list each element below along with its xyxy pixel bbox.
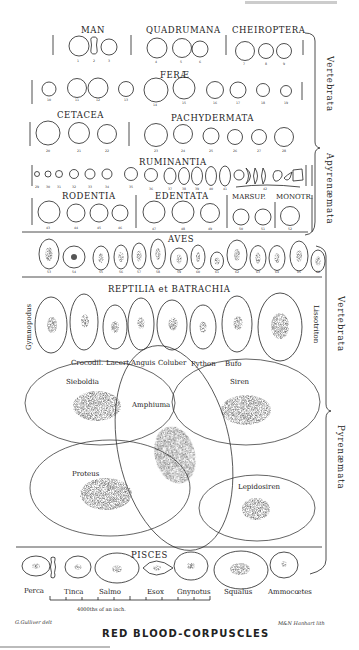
label-squalus: Squalus — [224, 588, 253, 596]
svg-text:15: 15 — [182, 101, 186, 105]
svg-text:30: 30 — [46, 185, 50, 189]
svg-text:36: 36 — [149, 187, 153, 191]
label-esox: Esox — [147, 588, 164, 596]
label-edentata: EDENTATA — [155, 191, 209, 201]
svg-text:28: 28 — [282, 149, 286, 153]
label-gymnopodus: Gymnopodus — [25, 303, 33, 350]
svg-text:18: 18 — [261, 101, 265, 105]
svg-text:26: 26 — [233, 149, 237, 153]
label-lissotriton: Lissotriton — [312, 305, 320, 344]
svg-text:7: 7 — [243, 62, 245, 66]
svg-text:2: 2 — [93, 59, 95, 63]
svg-text:41: 41 — [223, 187, 227, 191]
label-vertebrata-1: Vertebrata — [325, 55, 335, 112]
label-pisces: PISCES — [131, 550, 168, 560]
svg-text:57: 57 — [137, 270, 141, 274]
svg-text:47: 47 — [152, 227, 156, 231]
svg-text:21: 21 — [77, 149, 81, 153]
svg-text:65: 65 — [297, 270, 301, 274]
row-ruminantia: RUMINANTIA 293031 323334 353637 383940 4… — [32, 157, 312, 191]
svg-text:55: 55 — [99, 270, 103, 274]
faded-caption — [0, 646, 110, 648]
label-apyrenaemata: Apyrenæmata — [325, 152, 335, 225]
label-salmo: Salmo — [99, 588, 121, 596]
lithographer-signature: M&N Hanhart lith — [277, 620, 325, 626]
label-vertebrata-2: Vertebrata — [336, 295, 346, 352]
label-amphiuma: Amphiuma — [131, 401, 170, 409]
svg-text:63: 63 — [256, 270, 260, 274]
svg-text:58: 58 — [156, 270, 160, 274]
scale-label: 4000ths of an inch. — [77, 606, 126, 612]
figure-title: RED BLOOD-CORPUSCLES — [102, 628, 270, 639]
label-bufo: Bufo — [225, 360, 241, 368]
svg-text:6: 6 — [199, 60, 201, 64]
svg-text:53: 53 — [47, 270, 51, 274]
svg-text:32: 32 — [72, 185, 76, 189]
svg-text:24: 24 — [181, 149, 185, 153]
row-pisces: PISCES Perca Tinca Salmo Esox Gnynotus S… — [22, 550, 312, 596]
svg-text:34: 34 — [105, 185, 109, 189]
red-blood-corpuscles-plate: MAN QUADRUMANA CHEIROPTERA 123 456 789 F… — [0, 0, 359, 650]
svg-text:59: 59 — [177, 270, 181, 274]
svg-text:64: 64 — [275, 270, 279, 274]
svg-text:1: 1 — [77, 59, 79, 63]
svg-text:62: 62 — [235, 270, 239, 274]
svg-text:60: 60 — [196, 270, 200, 274]
svg-text:27: 27 — [257, 149, 261, 153]
svg-text:12: 12 — [96, 98, 100, 102]
svg-text:19: 19 — [284, 101, 288, 105]
scale-bar: 4000ths of an inch. — [50, 596, 210, 612]
label-ferae: FERÆ — [160, 70, 189, 80]
label-siren: Siren — [230, 378, 250, 386]
label-cetacea: CETACEA — [57, 110, 104, 120]
bracket-apyrenaemata: Vertebrata Apyrenæmata — [305, 33, 335, 235]
svg-text:46: 46 — [118, 226, 122, 230]
svg-text:4: 4 — [155, 60, 157, 64]
svg-text:17: 17 — [236, 101, 240, 105]
row-rodentia-edentata-marsup-monotr: RODENTIA EDENTATA MARSUP. MONOTR. 434445… — [22, 191, 313, 232]
svg-text:49: 49 — [208, 227, 212, 231]
bracket-pyrenaemata: Vertebrata Pyrenæmata — [310, 246, 346, 574]
row-reptilia-batrachia: REPTILIA et BATRACHIA Gymnopodus Lissotr… — [25, 284, 320, 368]
label-reptilia: REPTILIA et BATRACHIA — [108, 284, 231, 294]
svg-text:42: 42 — [263, 187, 267, 191]
svg-text:8: 8 — [265, 62, 267, 66]
label-rodentia: RODENTIA — [62, 191, 116, 201]
svg-text:3: 3 — [108, 59, 110, 63]
label-coluber: Coluber — [158, 359, 187, 367]
svg-text:45: 45 — [97, 226, 101, 230]
svg-text:16: 16 — [213, 101, 217, 105]
svg-text:29: 29 — [35, 185, 39, 189]
svg-text:35: 35 — [129, 185, 133, 189]
svg-text:22: 22 — [105, 149, 109, 153]
label-anguis: Anguis — [130, 359, 156, 367]
svg-text:31: 31 — [57, 185, 61, 189]
label-ruminantia: RUMINANTIA — [139, 157, 207, 167]
label-sieboldia: Sieboldia — [66, 378, 99, 386]
svg-text:13: 13 — [124, 98, 128, 102]
label-proteus: Proteus — [72, 470, 100, 478]
svg-text:44: 44 — [74, 226, 78, 230]
label-lepidosiren: Lepidosiren — [238, 483, 281, 491]
amphibia-large-cells: Sieboldia Siren Amphiuma Proteus Lepidos… — [16, 335, 322, 562]
row-aves: AVES 535455 565758 596061 626364 6566 — [22, 234, 325, 277]
row-man-quadrumana-cheiroptera: MAN QUADRUMANA CHEIROPTERA 123 456 789 — [53, 25, 306, 66]
row-ferae: FERÆ 101112 131415 161718 19 — [32, 70, 302, 107]
label-ammocoetes: Ammocœtes — [267, 588, 312, 596]
svg-text:14: 14 — [153, 103, 157, 107]
svg-text:23: 23 — [154, 149, 158, 153]
label-man: MAN — [81, 25, 105, 35]
label-tinca: Tinca — [64, 588, 84, 596]
label-cheiroptera: CHEIROPTERA — [232, 25, 306, 35]
label-marsupialia: MARSUP. — [232, 193, 266, 201]
svg-text:33: 33 — [88, 185, 92, 189]
svg-text:50: 50 — [239, 227, 243, 231]
svg-text:25: 25 — [209, 149, 213, 153]
cell-2 — [91, 37, 97, 54]
svg-text:10: 10 — [47, 98, 51, 102]
svg-text:66: 66 — [316, 270, 320, 274]
label-aves: AVES — [167, 234, 194, 244]
faded-header-text — [245, 1, 337, 4]
svg-text:43: 43 — [46, 226, 50, 230]
svg-text:11: 11 — [75, 98, 79, 102]
